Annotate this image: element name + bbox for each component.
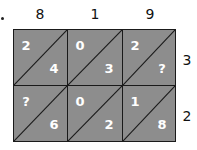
lattice-cell-r1c2: 0 3	[67, 29, 123, 86]
side-label-1: 3	[180, 52, 194, 68]
lattice-grid: 2 4 0 3 2 ? ? 6 0 2 1 8	[13, 29, 176, 142]
tens-digit: 0	[73, 95, 87, 109]
ones-digit: 6	[47, 118, 61, 132]
ones-digit: 3	[102, 62, 116, 76]
side-label-2: 2	[180, 108, 194, 124]
ones-digit: 2	[102, 118, 116, 132]
lattice-cell-r1c3: 2 ?	[122, 29, 176, 86]
ones-digit: ?	[155, 62, 169, 76]
tens-digit: 1	[128, 95, 142, 109]
tens-digit: 2	[128, 39, 142, 53]
bullet-marker	[1, 17, 4, 20]
ones-digit: 8	[155, 118, 169, 132]
tens-digit: ?	[19, 95, 33, 109]
tens-digit: 2	[19, 39, 33, 53]
lattice-cell-r1c1: 2 4	[13, 29, 68, 86]
top-label-2: 1	[85, 6, 105, 22]
lattice-cell-r2c1: ? 6	[13, 85, 68, 142]
tens-digit: 0	[73, 39, 87, 53]
top-label-1: 8	[30, 6, 50, 22]
ones-digit: 4	[47, 62, 61, 76]
lattice-cell-r2c2: 0 2	[67, 85, 123, 142]
lattice-cell-r2c3: 1 8	[122, 85, 176, 142]
top-label-3: 9	[140, 6, 160, 22]
